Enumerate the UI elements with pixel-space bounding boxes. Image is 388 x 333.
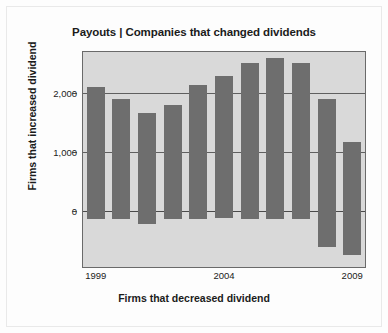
bar-2004 xyxy=(215,76,233,218)
y-tick-label-2000: 2,000 xyxy=(31,88,77,99)
bar-2008 xyxy=(318,99,336,247)
x-tick-label-2009: 2009 xyxy=(342,270,363,281)
y-tick-mark xyxy=(72,211,77,212)
chart-figure: Payouts | Companies that changed dividen… xyxy=(0,0,388,333)
x-tick-label-2004: 2004 xyxy=(213,270,234,281)
bar-2003 xyxy=(189,85,207,219)
x-axis-tick-labels: 199920042009 xyxy=(82,270,366,288)
bar-2009 xyxy=(343,142,361,255)
y-axis-tick-labels: 2,0001,0000 xyxy=(22,51,77,268)
bar-1999 xyxy=(87,87,105,219)
x-tick-label-1999: 1999 xyxy=(85,270,106,281)
chart-title: Payouts | Companies that changed dividen… xyxy=(0,26,388,38)
y-tick-mark xyxy=(72,152,77,153)
bar-series xyxy=(83,52,365,267)
y-tick-label-1000: 1,000 xyxy=(31,146,77,157)
bar-2007 xyxy=(292,63,310,220)
y-tick-mark xyxy=(72,93,77,94)
bar-2001 xyxy=(138,113,156,225)
x-axis-title: Firms that decreased dividend xyxy=(0,292,388,304)
bar-2006 xyxy=(266,58,284,218)
bar-2005 xyxy=(241,63,259,220)
plot-area xyxy=(82,51,366,268)
bar-2000 xyxy=(112,99,130,219)
bar-2002 xyxy=(164,105,182,219)
y-tick-label-0: 0 xyxy=(31,205,77,216)
